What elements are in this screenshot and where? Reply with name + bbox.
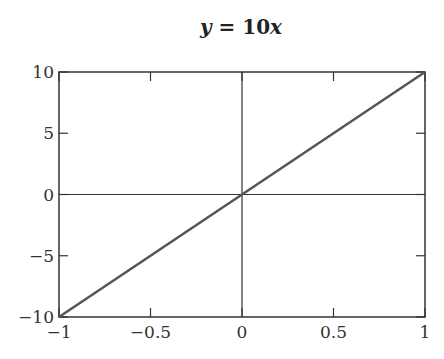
plot-area: −1−0.500.51−10−50510: [18, 62, 430, 342]
x-tick-label: 1: [420, 322, 431, 342]
x-tick-label: 0.5: [320, 322, 347, 342]
y-tick-label: −10: [18, 307, 54, 327]
y-tick-label: 0: [43, 185, 54, 205]
x-tick-label: 0: [237, 322, 248, 342]
y-tick-label: 5: [43, 123, 54, 143]
chart: y = 10x −1−0.500.51−10−50510: [0, 0, 444, 359]
y-tick-label: 10: [32, 62, 54, 82]
y-tick-label: −5: [29, 246, 54, 266]
x-tick-label: −0.5: [130, 322, 171, 342]
chart-title: y = 10x: [199, 15, 283, 39]
